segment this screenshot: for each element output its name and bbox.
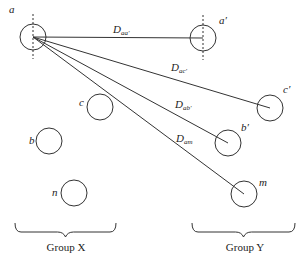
distance-line-a-m [33, 37, 244, 194]
conductor-n-circle [61, 180, 87, 206]
conductor-label-c_prime: c′ [283, 83, 291, 95]
group-y-brace [192, 223, 295, 237]
distance-label-m: Dam [175, 132, 193, 146]
distance-label-c_prime: Dac′ [170, 61, 188, 75]
group-y-label: Group Y [226, 241, 264, 253]
groups: Group XGroup Y [15, 223, 295, 253]
distance-label-a_prime: Daa′ [112, 23, 130, 37]
group-x-brace [15, 223, 116, 237]
diagram-svg: Daa′Dac′Dab′Damacbna′c′b′m Group XGroup … [0, 0, 308, 263]
conductor-b-circle [36, 128, 62, 154]
group-x-label: Group X [47, 241, 86, 253]
distance-line-a-b_prime [33, 37, 228, 143]
distance-lines [33, 37, 270, 194]
conductor-label-m: m [259, 176, 267, 188]
conductor-label-n: n [52, 186, 58, 198]
distance-label-b_prime: Dab′ [174, 98, 192, 112]
distance-line-a-a_prime [33, 37, 203, 38]
conductor-label-b: b [29, 134, 35, 146]
conductor-c-circle [87, 94, 113, 120]
distance-line-a-c_prime [33, 37, 270, 108]
gmd-distance-diagram: Daa′Dac′Dab′Damacbna′c′b′m Group XGroup … [0, 0, 308, 263]
conductor-label-b_prime: b′ [241, 121, 250, 133]
conductor-label-c: c [79, 96, 84, 108]
conductor-label-a_prime: a′ [219, 14, 228, 26]
conductor-label-a: a [9, 3, 15, 15]
conductors [20, 14, 283, 207]
